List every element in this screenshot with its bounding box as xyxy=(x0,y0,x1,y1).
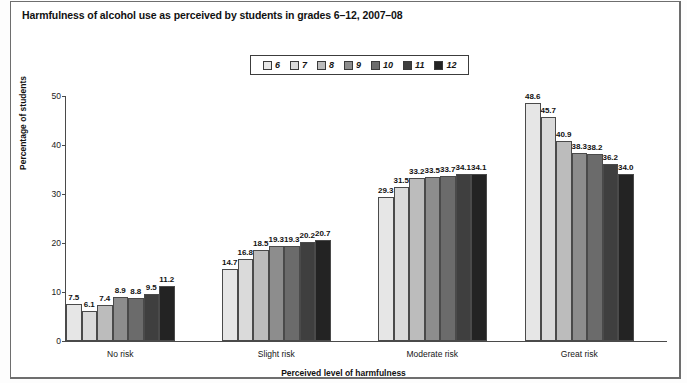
legend-swatch-icon xyxy=(317,61,326,70)
bar-column: 40.9 xyxy=(556,96,572,341)
y-axis-tick xyxy=(62,145,66,146)
y-axis-tick-label: 40 xyxy=(52,140,61,150)
bar-grade-11[interactable] xyxy=(456,174,472,341)
legend-item-grade-11[interactable]: 11 xyxy=(403,60,424,70)
bar-grade-10[interactable] xyxy=(284,246,300,341)
bar-grade-6[interactable] xyxy=(525,103,541,341)
bar-column: 34.1 xyxy=(471,96,487,341)
bar-grade-8[interactable] xyxy=(253,250,269,341)
bar-group-moderate-risk: 29.331.533.233.533.734.134.1 xyxy=(378,96,487,341)
legend-swatch-icon xyxy=(371,61,380,70)
legend-label: 12 xyxy=(446,60,456,70)
bar-grade-6[interactable] xyxy=(66,304,82,341)
bar-grade-7[interactable] xyxy=(394,187,410,341)
legend-swatch-icon xyxy=(290,61,299,70)
bar-column: 33.7 xyxy=(440,96,456,341)
bar-column: 16.8 xyxy=(238,96,254,341)
legend-swatch-icon xyxy=(344,61,353,70)
legend-item-grade-7[interactable]: 7 xyxy=(290,60,307,70)
bar-grade-12[interactable] xyxy=(315,240,331,341)
bar-grade-6[interactable] xyxy=(378,197,394,341)
legend-swatch-icon xyxy=(434,61,443,70)
legend-label: 11 xyxy=(415,60,424,70)
bar-column: 33.2 xyxy=(409,96,425,341)
bar-value-label: 34.0 xyxy=(609,163,643,172)
bar-column: 19.3 xyxy=(284,96,300,341)
bar-grade-8[interactable] xyxy=(97,305,113,341)
bar-grade-8[interactable] xyxy=(556,141,572,341)
bar-grade-7[interactable] xyxy=(82,311,98,341)
legend-item-grade-9[interactable]: 9 xyxy=(344,60,361,70)
y-axis-tick-label: 0 xyxy=(56,336,61,346)
legend-label: 7 xyxy=(302,60,307,70)
bar-grade-11[interactable] xyxy=(144,294,160,341)
bar-grade-6[interactable] xyxy=(222,269,238,341)
y-axis-tick-label: 20 xyxy=(52,238,61,248)
legend-label: 9 xyxy=(356,60,361,70)
bar-column: 8.8 xyxy=(128,96,144,341)
legend-item-grade-10[interactable]: 10 xyxy=(371,60,393,70)
bar-column: 20.7 xyxy=(315,96,331,341)
bar-column: 14.7 xyxy=(222,96,238,341)
bar-grade-7[interactable] xyxy=(541,117,557,341)
bar-group-great-risk: 48.645.740.938.338.236.234.0 xyxy=(525,96,634,341)
bar-column: 38.3 xyxy=(572,96,588,341)
y-axis-tick xyxy=(62,96,66,97)
bar-column: 34.1 xyxy=(456,96,472,341)
chart-title: Harmfulness of alcohol use as perceived … xyxy=(22,9,403,21)
chart-legend: 6789101112 xyxy=(250,55,469,75)
bar-grade-10[interactable] xyxy=(587,154,603,341)
bar-column: 31.5 xyxy=(394,96,410,341)
bar-grade-9[interactable] xyxy=(269,246,285,341)
x-axis-category-label: Moderate risk xyxy=(378,349,487,359)
legend-swatch-icon xyxy=(403,61,412,70)
x-axis-title: Perceived level of harmfulness xyxy=(0,368,687,378)
bar-grade-12[interactable] xyxy=(471,174,487,341)
bar-column: 11.2 xyxy=(159,96,175,341)
legend-item-grade-8[interactable]: 8 xyxy=(317,60,334,70)
bar-value-label: 34.1 xyxy=(462,163,496,172)
x-axis-line xyxy=(65,341,667,342)
bar-grade-9[interactable] xyxy=(572,153,588,341)
bar-column: 48.6 xyxy=(525,96,541,341)
x-axis-category-label: No risk xyxy=(66,349,175,359)
bar-grade-7[interactable] xyxy=(238,259,254,341)
legend-item-grade-6[interactable]: 6 xyxy=(263,60,280,70)
y-axis-tick-label: 50 xyxy=(52,91,61,101)
bar-grade-11[interactable] xyxy=(603,164,619,341)
bar-grade-9[interactable] xyxy=(425,177,441,341)
y-axis-tick xyxy=(62,194,66,195)
bar-group-slight-risk: 14.716.818.519.319.320.220.7 xyxy=(222,96,331,341)
bar-grade-12[interactable] xyxy=(618,174,634,341)
bar-column: 7.4 xyxy=(97,96,113,341)
x-axis-category-label: Great risk xyxy=(525,349,634,359)
bar-column: 18.5 xyxy=(253,96,269,341)
bar-column: 19.3 xyxy=(269,96,285,341)
y-axis-tick xyxy=(62,341,66,342)
chart-figure: Harmfulness of alcohol use as perceived … xyxy=(0,0,687,383)
legend-label: 8 xyxy=(329,60,334,70)
bar-column: 33.5 xyxy=(425,96,441,341)
y-axis-tick-label: 10 xyxy=(52,287,61,297)
legend-label: 6 xyxy=(275,60,280,70)
legend-label: 10 xyxy=(383,60,393,70)
bar-value-label: 11.2 xyxy=(150,275,184,284)
y-axis-title: Percentage of students xyxy=(18,76,28,170)
plot-area: 7.56.17.48.98.89.511.214.716.818.519.319… xyxy=(66,96,666,341)
bar-column: 20.2 xyxy=(300,96,316,341)
bar-column: 34.0 xyxy=(618,96,634,341)
legend-swatch-icon xyxy=(263,61,272,70)
bar-grade-9[interactable] xyxy=(113,297,129,341)
bar-column: 8.9 xyxy=(113,96,129,341)
bar-grade-10[interactable] xyxy=(128,298,144,341)
bar-grade-12[interactable] xyxy=(159,286,175,341)
y-axis-tick xyxy=(62,243,66,244)
bar-column: 9.5 xyxy=(144,96,160,341)
legend-item-grade-12[interactable]: 12 xyxy=(434,60,456,70)
bar-grade-10[interactable] xyxy=(440,176,456,341)
bar-grade-8[interactable] xyxy=(409,178,425,341)
bar-group-no-risk: 7.56.17.48.98.89.511.2 xyxy=(66,96,175,341)
x-axis-category-label: Slight risk xyxy=(222,349,331,359)
y-axis-tick xyxy=(62,292,66,293)
bar-grade-11[interactable] xyxy=(300,242,316,341)
